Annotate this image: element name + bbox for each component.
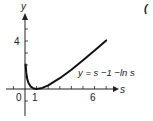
x-axis-label: s (120, 84, 125, 95)
corner-mark: ( (144, 2, 149, 14)
y-axis-arrow-icon (22, 13, 28, 20)
y-tick-label-4: 4 (14, 36, 20, 47)
equation-label: y = s −1 −ln s (77, 67, 135, 78)
x-tick-label-0: 0 (16, 92, 22, 103)
x-tick-label-6: 6 (90, 92, 96, 103)
chart-canvas: y s 4 0 1 6 y = s −1 −ln s ( (0, 0, 153, 121)
curve-series (26, 40, 107, 89)
x-axis-arrow-icon (113, 86, 119, 92)
y-axis-label: y (20, 1, 27, 12)
x-tick-label-1: 1 (32, 92, 38, 103)
